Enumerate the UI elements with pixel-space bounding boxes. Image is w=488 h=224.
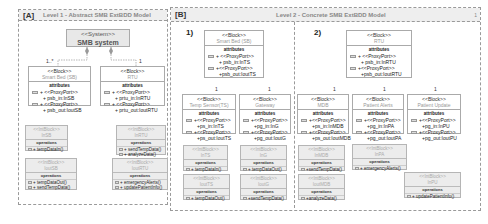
interface-ing[interactable]: <<IntBlock>>InG operations + tempDataOut… bbox=[240, 145, 287, 171]
panel-b-tag: [B] bbox=[175, 8, 186, 22]
multiplicity: 1 bbox=[268, 86, 271, 92]
port-icon bbox=[32, 103, 38, 106]
operation-icon bbox=[115, 181, 119, 184]
interface-name: IoutRTU bbox=[113, 166, 167, 172]
port-icon bbox=[32, 91, 38, 94]
block-name: RTU bbox=[348, 38, 410, 44]
operation-row: +sendTempData() bbox=[241, 196, 286, 202]
attributes-label: attributes bbox=[205, 46, 263, 53]
port-name: + prtu_out:IoutRTU bbox=[101, 107, 164, 113]
port-icon bbox=[356, 119, 362, 122]
panel-a-header: [A] Level 1 - Abstract SMB ExtBDD Model bbox=[19, 10, 167, 21]
port-icon bbox=[243, 119, 249, 122]
port-name: +psb_out:IoutRTU bbox=[347, 71, 411, 77]
operation-row: +analyzeData() bbox=[299, 196, 344, 202]
port-icon bbox=[411, 119, 417, 122]
interface-ioutrtu[interactable]: <<IntBlock>>IoutRTU operations + emergen… bbox=[112, 158, 168, 190]
port-icon bbox=[186, 131, 192, 134]
interface-name: InPU bbox=[405, 180, 460, 186]
operation-row: + tempDataIn() bbox=[184, 167, 227, 173]
operation-name: + tempDataOut() bbox=[33, 180, 67, 185]
port-name: +psb_out:IoutTS bbox=[205, 71, 263, 77]
port-icon bbox=[350, 55, 356, 58]
patient-alerts-block[interactable]: <<Block>>Patient Alerts attributes +<<Pr… bbox=[352, 94, 404, 134]
panel-b-title: Level 2 - Concrete SMB ExtBDD Model bbox=[276, 8, 386, 22]
multiplicity: 1 bbox=[333, 86, 336, 92]
interface-inmdb[interactable]: <<IntBlock>>InMDB operations +sendTempDa… bbox=[298, 145, 345, 171]
gateway-block[interactable]: <<Block>>Gateway attributes +<<ProxyPort… bbox=[239, 94, 291, 134]
interface-name: InMDB bbox=[299, 153, 344, 159]
operation-name: + emergencyAlerts() bbox=[120, 180, 161, 185]
operation-name: + tempDataIn() bbox=[33, 147, 63, 152]
attributes-label: attributes bbox=[353, 110, 403, 117]
interface-name: InRTU bbox=[117, 133, 165, 139]
port-icon bbox=[350, 67, 356, 70]
attributes-label: attributes bbox=[240, 110, 290, 117]
attributes-label: attributes bbox=[347, 46, 411, 53]
interface-ioutsb[interactable]: <<IntBlock>>IoutSB operations + tempData… bbox=[25, 158, 77, 190]
interface-ints[interactable]: <<IntBlock>>InTS operations + tempDataIn… bbox=[183, 145, 228, 171]
system-stereotype: <<System>> bbox=[67, 30, 129, 38]
operation-icon bbox=[28, 186, 32, 189]
operation-icon bbox=[186, 168, 190, 171]
operation-name: + analyzeData() bbox=[124, 152, 156, 157]
interface-inpa[interactable]: <<IntBlock>>InPA operations + emergencyA… bbox=[352, 144, 407, 170]
operation-icon bbox=[119, 148, 123, 151]
rtu-parent-block[interactable]: <<Block>>RTU attributes + <<ProxyPort>> … bbox=[346, 30, 412, 78]
interface-iouts[interactable]: <<IntBlock>>IoutTS operations + tempData… bbox=[183, 174, 230, 200]
port-icon bbox=[208, 67, 214, 70]
interface-name: InTS bbox=[184, 153, 227, 159]
block-name: Patient Update bbox=[409, 102, 459, 108]
block-name: MDB bbox=[299, 102, 347, 108]
block-name: RTU bbox=[102, 74, 163, 80]
interface-name: InPA bbox=[353, 152, 406, 158]
port-name: + psb_out:IoutSB bbox=[29, 107, 90, 113]
interface-name: InG bbox=[241, 153, 286, 159]
operation-row: + sendTempData() bbox=[26, 185, 76, 191]
interface-ioutg[interactable]: <<IntBlock>>IoutG operations +sendTempDa… bbox=[240, 174, 287, 200]
port-icon bbox=[104, 103, 110, 106]
operation-icon bbox=[355, 167, 359, 170]
operation-icon bbox=[119, 153, 123, 156]
panel-a-tag: [A] bbox=[23, 10, 34, 21]
operation-icon bbox=[301, 197, 305, 200]
patient-update-block[interactable]: <<Block>>Patient Update attributes +<<Pr… bbox=[407, 94, 461, 134]
operation-name: + tempDataOut() bbox=[248, 167, 282, 172]
operation-icon bbox=[243, 168, 247, 171]
operation-row: + updatePatientInfo() bbox=[405, 194, 460, 200]
sub-diagram-2-label: 2) bbox=[314, 28, 321, 37]
panel-b-divider bbox=[294, 22, 295, 208]
port-icon bbox=[301, 119, 307, 122]
port-icon bbox=[301, 131, 307, 134]
smart-bed-block[interactable]: <<Block>> Smart Bed (SB) attributes + <<… bbox=[28, 66, 91, 106]
operation-row: + analyzeData() bbox=[117, 152, 165, 158]
operation-name: + tempDataOut() bbox=[191, 196, 225, 201]
interface-inrtu[interactable]: <<IntBlock>>InRTU operations + sendTempD… bbox=[116, 125, 166, 155]
attributes-label: attributes bbox=[29, 82, 90, 89]
rtu-block[interactable]: <<Block>> RTU attributes + <<ProxyPort>>… bbox=[100, 66, 165, 106]
mdb-block[interactable]: <<Block>>MDB attributes +<<ProxyPort>> +… bbox=[297, 94, 349, 134]
port-icon bbox=[411, 131, 417, 134]
system-block[interactable]: <<System>> SMB system bbox=[66, 29, 130, 47]
sub-diagram-1-label: 1) bbox=[186, 28, 193, 37]
temp-sensor-block[interactable]: <<Block>>Temp Sensor(TS) attributes +<<P… bbox=[182, 94, 236, 134]
smart-bed-parent-block[interactable]: <<Block>> Smart Bed (SB) attributes + <<… bbox=[204, 30, 264, 78]
panel-a-title: Level 1 - Abstract SMB ExtBDD Model bbox=[43, 10, 151, 21]
interface-name: IoutG bbox=[241, 182, 286, 188]
multiplicity-sb: 1..* bbox=[46, 58, 54, 64]
operation-icon bbox=[28, 181, 32, 184]
operation-name: +sendTempData() bbox=[248, 196, 284, 201]
port-name: +pg_out:IoutPA bbox=[353, 135, 403, 141]
operation-row: + emergencyAlerts() bbox=[353, 166, 406, 172]
operation-icon bbox=[243, 197, 247, 200]
operation-icon bbox=[115, 186, 119, 189]
interface-inpu[interactable]: <<IntBlock>>InPU operations + updatePati… bbox=[404, 172, 461, 198]
interface-insb[interactable]: <<IntBlock>>InSB operations + tempDataIn… bbox=[25, 125, 68, 151]
operation-row: + tempDataIn() bbox=[26, 147, 67, 153]
operation-icon bbox=[28, 148, 32, 151]
panel-b-corner: 1 bbox=[474, 8, 477, 22]
port-name: +pg_out:IoutG bbox=[240, 135, 290, 141]
multiplicity: 1 bbox=[383, 86, 386, 92]
interface-ioutmdb[interactable]: <<IntBlock>>IoutMDB operations +analyzeD… bbox=[298, 174, 345, 200]
operation-name: + updatePatientInfo() bbox=[120, 185, 162, 190]
